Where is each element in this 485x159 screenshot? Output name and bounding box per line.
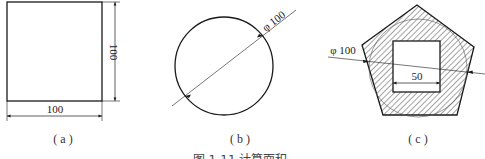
square-side-dimension-label: 50 [412, 70, 424, 82]
panel-a: 100 100 ( a ) [7, 2, 120, 146]
panel-b-label: ( b ) [230, 132, 250, 146]
circle-diameter-label: φ 100 [330, 44, 356, 56]
figure-caption: 图 1-11 计算面积 [193, 152, 288, 159]
panel-a-label: ( a ) [53, 132, 72, 146]
panel-c: φ 100 50 ( c ) [328, 5, 485, 146]
square-shape [7, 2, 102, 101]
width-dimension-label: 100 [47, 103, 64, 115]
height-dimension-label: 100 [108, 44, 120, 61]
figure-canvas: 100 100 ( a ) φ 100 ( b ) φ 100 50 ( c )… [0, 0, 485, 159]
panel-b: φ 100 ( b ) [172, 8, 296, 146]
panel-c-label: ( c ) [408, 132, 427, 146]
diameter-dimension-label: φ 100 [260, 8, 288, 33]
